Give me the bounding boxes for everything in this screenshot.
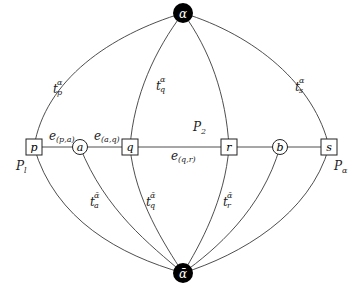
svg-text:a: a xyxy=(77,141,84,154)
svg-text:ᾱ: ᾱ xyxy=(150,191,156,200)
svg-text:q: q xyxy=(126,141,133,154)
label-t-r-alphabar: t r ᾱ xyxy=(223,191,233,210)
terminal-alpha-bar: ᾱ xyxy=(173,263,193,283)
label-e-pa: e (p,a) xyxy=(49,129,75,144)
graph-cut-diagram: p a q r b s α ᾱ t p α t q α t s α xyxy=(0,0,358,285)
svg-text:q: q xyxy=(160,85,165,94)
edge-b-alphabar xyxy=(183,147,280,273)
svg-text:(p,a): (p,a) xyxy=(56,135,75,144)
svg-text:r: r xyxy=(227,201,232,210)
node-r: r xyxy=(221,139,237,155)
terminal-alpha: α xyxy=(173,3,193,23)
node-a: a xyxy=(73,140,88,155)
svg-text:s: s xyxy=(326,141,332,154)
node-q: q xyxy=(122,139,138,155)
svg-text:α: α xyxy=(342,166,348,175)
node-b: b xyxy=(273,140,288,155)
label-e-aq: e (a,q) xyxy=(94,129,120,144)
svg-text:a: a xyxy=(94,201,99,210)
svg-text:ᾱ: ᾱ xyxy=(94,191,100,200)
svg-text:ᾱ: ᾱ xyxy=(227,191,233,200)
alpha-edges xyxy=(34,13,329,147)
node-s: s xyxy=(321,139,337,155)
label-t-p-alpha: t p α xyxy=(53,78,63,97)
label-e-qr: e (q,r) xyxy=(171,149,196,164)
edge-r-alphabar xyxy=(183,147,229,273)
svg-text:r: r xyxy=(226,141,232,154)
edge-q-alphabar xyxy=(130,147,183,273)
alphabar-edges xyxy=(34,147,329,273)
edge-s-alphabar xyxy=(183,147,329,273)
svg-text:α: α xyxy=(160,75,166,84)
svg-text:s: s xyxy=(299,86,303,95)
svg-text:l: l xyxy=(24,166,27,175)
label-t-q-alpha: t q α xyxy=(156,75,166,94)
svg-text:α: α xyxy=(57,78,63,87)
label-t-a-alphabar: t a ᾱ xyxy=(90,191,100,210)
label-P-2: P 2 xyxy=(192,120,206,136)
svg-text:p: p xyxy=(57,88,62,97)
label-t-q-alphabar: t q ᾱ xyxy=(146,191,156,210)
svg-text:p: p xyxy=(30,141,37,154)
svg-text:2: 2 xyxy=(200,127,206,136)
node-p: p xyxy=(26,139,42,155)
svg-text:q: q xyxy=(150,201,155,210)
svg-text:(a,q): (a,q) xyxy=(101,135,120,144)
svg-text:b: b xyxy=(276,141,283,154)
svg-text:α: α xyxy=(179,7,187,21)
svg-text:ᾱ: ᾱ xyxy=(179,267,187,281)
label-P-alpha: P α xyxy=(333,159,348,175)
svg-text:(q,r): (q,r) xyxy=(178,155,196,164)
svg-text:α: α xyxy=(299,76,305,85)
label-P-l: P l xyxy=(15,159,27,175)
